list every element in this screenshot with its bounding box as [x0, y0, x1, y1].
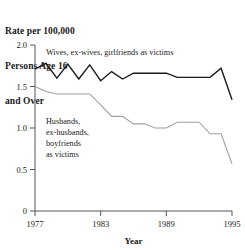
y-tick-label: 2.0	[16, 40, 27, 50]
x-tick-label: 1977	[27, 219, 44, 229]
x-tick-label: 1989	[158, 219, 175, 229]
chart-figure: Rate per 100,000 Persons Age 16 and Over…	[0, 0, 245, 250]
husbands-label-line-3: as victims	[46, 150, 79, 159]
husbands-label-line-1: ex-husbands,	[46, 128, 89, 137]
x-tick-label: 1983	[92, 219, 109, 229]
chart-plot-area: 00.51.01.52.01977198319891995YearWives, …	[0, 0, 245, 250]
husbands-label-line-0: Husbands,	[46, 117, 80, 126]
y-tick-label: 1.5	[16, 82, 27, 92]
y-tick-label: 0	[23, 206, 27, 216]
husbands-label-line-2: boyfriends	[46, 139, 81, 148]
y-tick-label: 1.0	[16, 123, 27, 133]
y-tick-label: 0.5	[16, 165, 27, 175]
x-axis-title: Year	[125, 236, 143, 246]
wives-label-line-0: Wives, ex-wives, girlfriends as victims	[46, 48, 173, 57]
x-tick-label: 1995	[224, 219, 241, 229]
